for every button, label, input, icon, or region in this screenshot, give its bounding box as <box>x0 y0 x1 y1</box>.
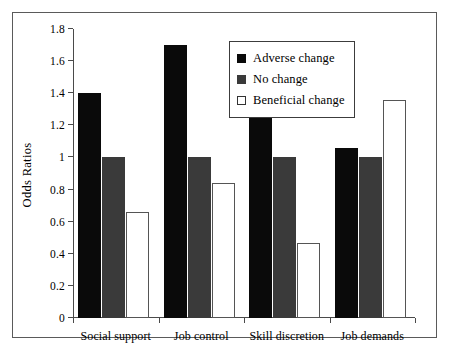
y-axis-line <box>73 29 74 318</box>
bar <box>335 148 358 318</box>
x-tick <box>244 318 245 323</box>
legend-swatch-icon <box>237 75 246 84</box>
y-tick-label: 0.8 <box>50 184 65 196</box>
y-tick <box>68 189 73 190</box>
chart-legend: Adverse changeNo changeBeneficial change <box>229 41 355 118</box>
y-tick <box>68 285 73 286</box>
x-axis-label: Social support <box>81 329 151 344</box>
legend-item: Adverse change <box>237 48 345 69</box>
bar <box>102 157 125 318</box>
y-tick-label: 1 <box>59 151 65 163</box>
y-tick <box>68 60 73 61</box>
y-tick <box>68 221 73 222</box>
y-tick <box>68 28 73 29</box>
y-tick-label: 0.6 <box>50 216 65 228</box>
bar <box>78 93 101 318</box>
bar <box>212 183 235 318</box>
bar <box>359 157 382 318</box>
x-axis-label: Job demands <box>341 329 404 344</box>
x-axis-label: Skill discretion <box>249 329 324 344</box>
bar <box>126 212 149 318</box>
legend-item: No change <box>237 69 345 90</box>
y-tick-label: 1.2 <box>50 119 65 131</box>
legend-label: Adverse change <box>253 51 335 66</box>
y-tick <box>68 124 73 125</box>
y-tick <box>68 253 73 254</box>
bar <box>383 100 406 318</box>
chart-figure: Odds Ratios 00.20.40.60.811.21.41.61.8 S… <box>12 12 437 338</box>
legend-label: Beneficial change <box>253 93 345 108</box>
y-tick-label: 1.8 <box>50 23 65 35</box>
x-tick <box>73 318 74 323</box>
legend-label: No change <box>253 72 308 87</box>
y-tick-label: 0 <box>59 312 65 324</box>
legend-item: Beneficial change <box>237 90 345 111</box>
bar <box>164 45 187 318</box>
y-tick-label: 0.2 <box>50 280 65 292</box>
bar <box>297 243 320 318</box>
x-tick <box>330 318 331 323</box>
y-tick <box>68 92 73 93</box>
bar <box>188 157 211 318</box>
x-axis-label: Job control <box>174 329 229 344</box>
y-tick-label: 1.4 <box>50 87 65 99</box>
plot-area: 00.20.40.60.811.21.41.61.8 Social suppor… <box>73 29 415 318</box>
bar <box>273 157 296 318</box>
y-axis-title: Odds Ratios <box>20 143 35 208</box>
y-tick <box>68 156 73 157</box>
legend-swatch-icon <box>237 96 246 105</box>
x-tick <box>159 318 160 323</box>
x-tick <box>415 318 416 323</box>
legend-swatch-icon <box>237 54 246 63</box>
y-tick-label: 0.4 <box>50 248 65 260</box>
y-tick-label: 1.6 <box>50 55 65 67</box>
